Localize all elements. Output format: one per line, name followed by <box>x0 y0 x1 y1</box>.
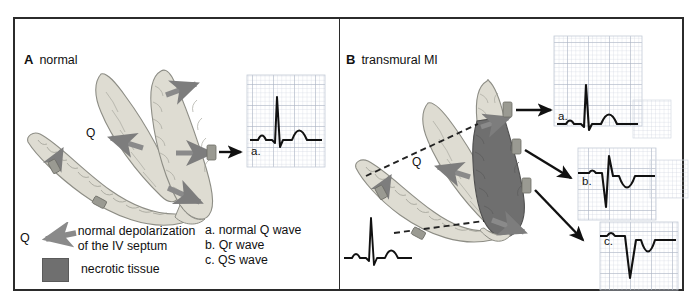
panel-b-heart <box>344 80 583 266</box>
panel-b-ecg-a <box>554 36 671 138</box>
legend-depol-line1: normal depolarization <box>78 224 196 238</box>
pointer-b-to-ecg-b <box>525 150 571 178</box>
panel-b-ecg-c <box>600 222 678 290</box>
lv-lateral-wall-b-healthy <box>476 80 504 122</box>
legend-q-symbol: Q <box>20 222 30 245</box>
legend-row-necrotic: necrotic tissue <box>20 258 220 282</box>
panel-b-ecg-b <box>578 148 688 220</box>
wave-list-item: a. normal Q wave <box>205 223 301 238</box>
legend-row-depolarization: Q normal depolarization of the IV septum <box>20 222 220 254</box>
wave-list-item: b. Qr wave <box>205 238 301 253</box>
ecg-grid-b-a-patch <box>633 100 671 138</box>
legend-depolarization-text: normal depolarization of the IV septum <box>78 222 196 253</box>
pointer-b-to-ecg-c <box>535 190 583 240</box>
panel-a-q-label: Q <box>86 126 95 140</box>
ecg-label-b-panel-b: b. <box>582 175 592 187</box>
necrotic-tissue-swatch <box>42 258 69 282</box>
legend: Q normal depolarization of the IV septum… <box>20 222 220 286</box>
figure-canvas: Anormal Btransmural MI <box>0 0 697 307</box>
ecg-label-a-panel-a: a. <box>251 145 261 157</box>
wave-type-list: a. normal Q wave b. Qr wave c. QS wave <box>205 223 301 267</box>
panel-b-q-label: Q <box>412 155 421 169</box>
legend-depol-line2: of the IV septum <box>78 239 168 253</box>
ecg-label-c-panel-b: c. <box>604 235 613 247</box>
ecg-label-a-panel-b: a. <box>558 110 568 122</box>
necrotic-tissue-region <box>473 117 525 237</box>
left-arrow-icon <box>32 222 78 254</box>
ecg-grid-b-b-patch <box>650 160 688 198</box>
inset-ecg-trace-b <box>344 218 412 265</box>
panel-a-heart <box>28 70 241 225</box>
legend-necrotic-label: necrotic tissue <box>81 258 160 277</box>
wave-list-item: c. QS wave <box>205 253 301 268</box>
